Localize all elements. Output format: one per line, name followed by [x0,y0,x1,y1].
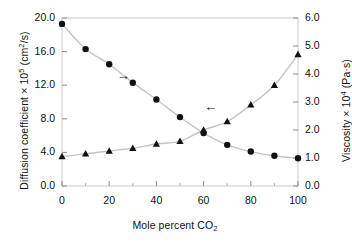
y-right-tick-label: 4.0 [305,67,345,79]
y-left-tick-label: 4.0 [15,145,55,157]
y-right-tick-label: 3.0 [305,95,345,107]
data-point-circle [82,46,88,52]
y-right-tick-label: 2.0 [305,123,345,135]
axis-ticks [62,18,298,186]
y-right-tick-label: 5.0 [305,39,345,51]
x-tick-label: 60 [184,194,224,206]
y-left-tick-label: 20.0 [15,11,55,23]
plot-frame [62,18,298,186]
series-markers [58,21,301,162]
data-point-circle [248,148,254,154]
arrow-to-right-axis: → [117,68,130,83]
data-point-triangle [294,51,301,58]
data-point-triangle [224,118,231,125]
data-point-circle [59,21,65,27]
data-point-circle [295,155,301,161]
y-right-tick-label: 6.0 [305,11,345,23]
data-point-triangle [247,101,254,108]
data-point-circle [106,61,112,67]
x-tick-label: 100 [278,194,318,206]
y-left-tick-label: 8.0 [15,112,55,124]
plot-border [62,18,298,186]
x-tick-label: 0 [42,194,82,206]
y-right-tick-label: 0.0 [305,179,345,191]
arrow-to-left-axis: ← [204,99,217,114]
y-left-tick-label: 0.0 [15,179,55,191]
x-tick-label: 80 [231,194,271,206]
y-left-tick-label: 16.0 [15,45,55,57]
y-left-tick-label: 12.0 [15,78,55,90]
x-tick-label: 20 [89,194,129,206]
data-point-circle [177,114,183,120]
data-point-circle [153,96,159,102]
data-point-circle [224,142,230,148]
y-right-tick-label: 1.0 [305,151,345,163]
data-point-circle [271,153,277,159]
data-point-circle [130,79,136,85]
x-tick-label: 40 [136,194,176,206]
